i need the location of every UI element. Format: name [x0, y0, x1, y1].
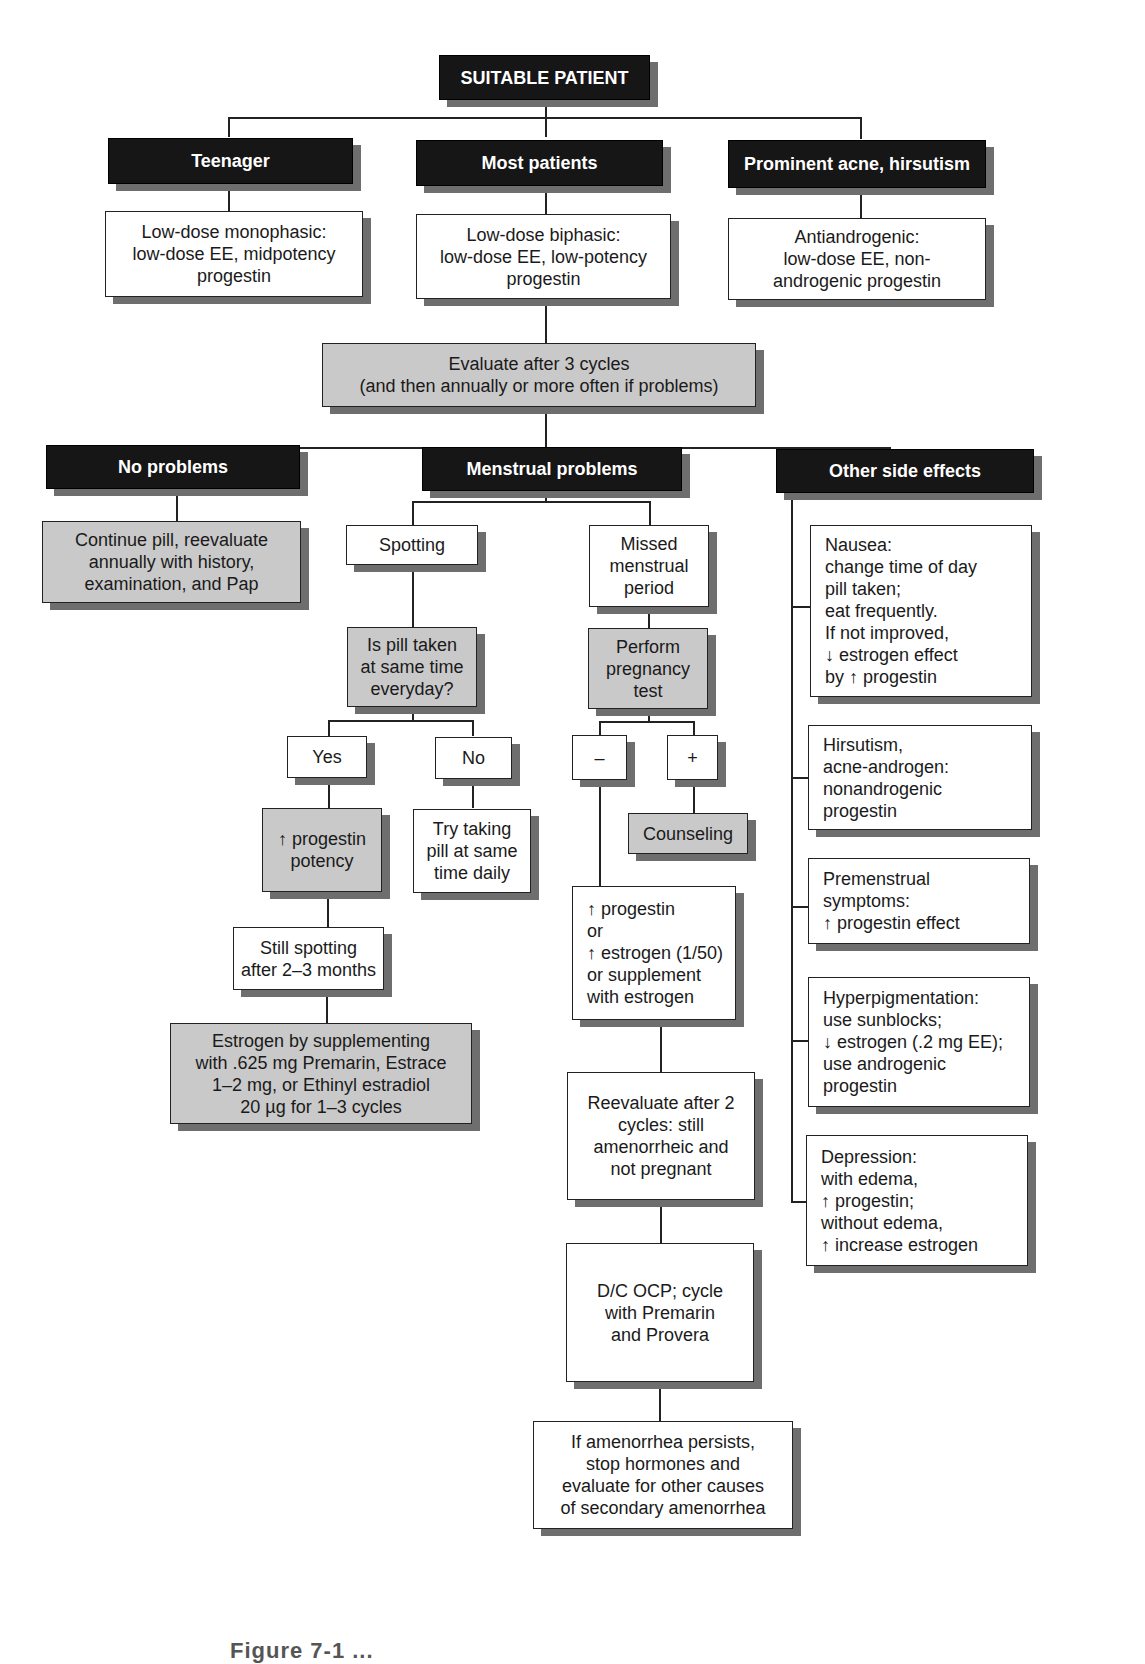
- connector: [648, 709, 650, 721]
- acne-recommendation: Antiandrogenic: low-dose EE, non- androg…: [728, 218, 986, 300]
- connector: [545, 100, 547, 118]
- connector: [545, 408, 547, 448]
- side-effect-premenstrual: Premenstrual symptoms: ↑ progestin effec…: [808, 858, 1030, 944]
- side-effect-hyperpigmentation: Hyperpigmentation: use sunblocks; ↓ estr…: [808, 977, 1030, 1107]
- connector: [599, 721, 693, 723]
- connector: [176, 489, 178, 521]
- dc-ocp-node: D/C OCP; cycle with Premarin and Provera: [566, 1243, 754, 1382]
- connector: [545, 117, 547, 137]
- connector: [649, 501, 651, 525]
- teenager-recommendation: Low-dose monophasic: low-dose EE, midpot…: [105, 211, 363, 297]
- connector: [412, 501, 414, 525]
- connector: [791, 606, 811, 608]
- connector: [545, 298, 547, 343]
- increase-progestin-potency: ↑ progestin potency: [262, 808, 382, 892]
- connector: [659, 1382, 661, 1422]
- most-patients-header: Most patients: [416, 140, 663, 186]
- missed-period-node: Missed menstrual period: [589, 525, 709, 607]
- connector: [328, 720, 330, 736]
- connector: [648, 606, 650, 628]
- connector: [412, 565, 414, 627]
- positive-result: +: [667, 735, 718, 780]
- menstrual-problems-header: Menstrual problems: [422, 447, 682, 491]
- connector: [860, 188, 862, 218]
- connector: [472, 778, 474, 808]
- side-effect-depression: Depression: with edema, ↑ progestin; wit…: [806, 1135, 1028, 1266]
- connector: [328, 778, 330, 808]
- reevaluate-node: Reevaluate after 2 cycles: still amenorr…: [567, 1072, 755, 1200]
- other-side-effects-header: Other side effects: [776, 449, 1034, 493]
- pregnancy-test-node: Perform pregnancy test: [588, 628, 708, 709]
- connector: [228, 117, 860, 119]
- negative-result: –: [572, 735, 627, 780]
- amenorrhea-persists-node: If amenorrhea persists, stop hormones an…: [533, 1421, 793, 1529]
- connector: [545, 491, 547, 501]
- side-effect-nausea: Nausea: change time of day pill taken; e…: [810, 525, 1032, 697]
- hormone-adjust-node: ↑ progestin or ↑ estrogen (1/50) or supp…: [572, 886, 736, 1020]
- connector: [412, 706, 414, 720]
- connector: [660, 1200, 662, 1244]
- figure-caption: Figure 7-1 ...: [230, 1638, 374, 1664]
- spotting-node: Spotting: [346, 525, 478, 565]
- connector: [545, 184, 547, 214]
- connector: [472, 720, 474, 736]
- no-problems-header: No problems: [46, 445, 300, 489]
- connector: [228, 184, 230, 212]
- connector: [326, 990, 328, 1024]
- try-same-time: Try taking pill at same time daily: [413, 809, 531, 893]
- connector: [660, 1020, 662, 1072]
- connector: [328, 720, 472, 722]
- counseling-node: Counseling: [628, 813, 748, 854]
- still-spotting-node: Still spotting after 2–3 months: [233, 927, 384, 990]
- evaluate-node: Evaluate after 3 cycles (and then annual…: [322, 343, 756, 407]
- acne-hirsutism-header: Prominent acne, hirsutism: [728, 140, 986, 188]
- most-patients-recommendation: Low-dose biphasic: low-dose EE, low-pote…: [416, 214, 671, 299]
- side-effect-hirsutism: Hirsutism, acne-androgen: nonandrogenic …: [808, 725, 1032, 830]
- connector: [693, 721, 695, 735]
- connector: [791, 492, 793, 1202]
- estrogen-supplement-node: Estrogen by supplementing with .625 mg P…: [170, 1023, 472, 1124]
- root-node: SUITABLE PATIENT: [439, 55, 650, 100]
- yes-branch: Yes: [287, 736, 367, 778]
- connector: [599, 721, 601, 735]
- pill-timing-question: Is pill taken at same time everyday?: [347, 627, 477, 707]
- connector: [860, 117, 862, 139]
- connector: [327, 892, 329, 928]
- connector: [228, 117, 230, 137]
- teenager-header: Teenager: [108, 138, 353, 184]
- no-problems-action: Continue pill, reevaluate annually with …: [42, 521, 301, 603]
- connector: [599, 780, 601, 886]
- connector: [412, 501, 649, 503]
- connector: [693, 780, 695, 814]
- no-branch: No: [435, 737, 512, 779]
